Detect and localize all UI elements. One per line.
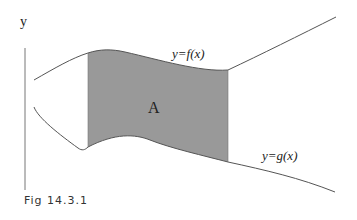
y-axis-label: y: [20, 14, 27, 30]
lower-curve-label: y=g(x): [262, 148, 297, 164]
figure-caption: Fig 14.3.1: [24, 194, 88, 207]
diagram-canvas: [0, 0, 357, 220]
upper-curve-label: y=f(x): [172, 46, 205, 62]
region-label: A: [148, 99, 160, 117]
